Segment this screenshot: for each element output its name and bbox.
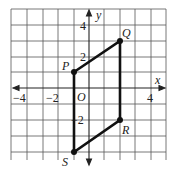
- point-s: [71, 149, 77, 155]
- point-label-p: P: [61, 59, 70, 73]
- x-tick-label: −2: [46, 91, 59, 105]
- y-axis-up-arrow-icon: [87, 10, 92, 16]
- x-tick-label: 4: [147, 91, 153, 105]
- y-axis-down-arrow-icon: [87, 159, 92, 165]
- x-axis-left-arrow-icon: [13, 86, 19, 91]
- origin-label: O: [77, 90, 86, 104]
- y-axis-label: y: [95, 8, 102, 22]
- coordinate-plane: y x O −4 −2 4 4 2 −2 P Q R S: [0, 0, 170, 176]
- point-label-r: R: [121, 123, 130, 137]
- point-p: [71, 69, 77, 75]
- point-label-s: S: [62, 155, 68, 169]
- y-tick-label: 4: [80, 19, 86, 33]
- x-axis-label: x: [154, 73, 161, 87]
- point-label-q: Q: [122, 26, 131, 40]
- y-tick-label: 2: [80, 50, 86, 64]
- x-tick-label: −4: [13, 91, 26, 105]
- y-tick-label: −2: [71, 113, 84, 127]
